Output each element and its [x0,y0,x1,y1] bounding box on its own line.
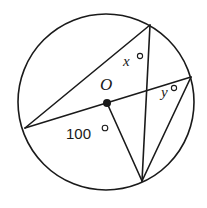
angle-x-label: x [122,53,143,69]
center-point [103,99,111,107]
degree-symbol [137,53,142,58]
angle-y-label: y [159,84,177,100]
radius-center-bottom [107,103,142,181]
angle-x-variable: x [122,53,130,69]
center-label: O [100,75,112,94]
angle-100-value: 100 [66,125,91,142]
angle-100-label: 100 [66,125,108,142]
angle-y-variable: y [159,84,168,100]
circle-diagram: O x y 100 [0,0,207,208]
degree-symbol [102,125,108,131]
degree-symbol [171,85,176,90]
chord-top-bottom [142,25,150,181]
